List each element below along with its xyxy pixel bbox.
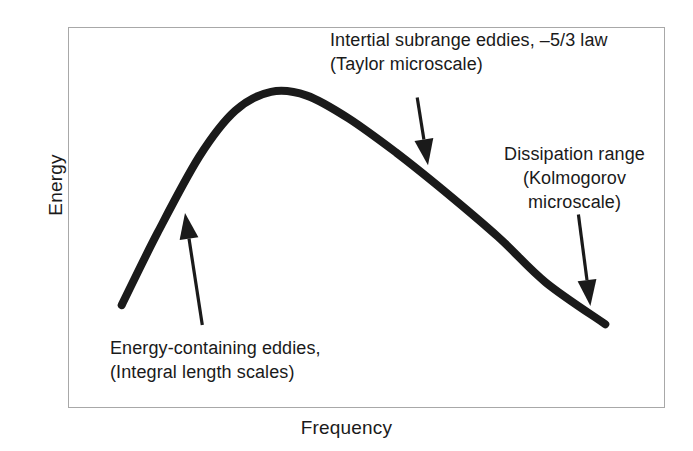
annotation-dissipation-line-3: microscale) [487, 190, 662, 214]
y-axis-label: Energy [45, 130, 67, 240]
annotation-dissipation-line-1: Dissipation range [487, 142, 662, 166]
annotation-dissipation-line-2: (Kolmogorov [487, 166, 662, 190]
annotation-inertial-line-2: (Taylor microscale) [330, 52, 608, 76]
turbulence-spectrum-figure: Energy Frequency Intertial subrange eddi… [0, 0, 693, 451]
x-axis-label: Frequency [0, 417, 693, 439]
annotation-energy-containing-eddies: Energy-containing eddies, (Integral leng… [110, 336, 321, 384]
annotation-energy-line-1: Energy-containing eddies, [110, 336, 321, 360]
annotation-dissipation-range: Dissipation range (Kolmogorov microscale… [487, 142, 662, 214]
annotation-energy-line-2: (Integral length scales) [110, 360, 321, 384]
annotation-inertial-subrange: Intertial subrange eddies, –5/3 law (Tay… [330, 28, 608, 76]
annotation-inertial-line-1: Intertial subrange eddies, –5/3 law [330, 28, 608, 52]
